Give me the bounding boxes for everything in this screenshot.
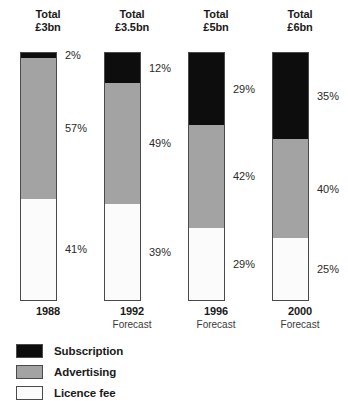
bar-total-caption: Total£6bn bbox=[271, 8, 329, 34]
bar-group-1996: Total£5bn29%42%29%1996Forecast bbox=[187, 0, 271, 330]
segment-advertising[interactable]: 57% bbox=[21, 58, 56, 199]
segment-subscription[interactable]: 35% bbox=[273, 53, 308, 139]
segment-percent-label: 49% bbox=[149, 137, 171, 149]
segment-licence-fee[interactable]: 29% bbox=[189, 228, 224, 300]
stacked-bar-chart: Total£3bn2%57%41%1988Total£3.5bn12%49%39… bbox=[0, 0, 348, 330]
segment-subscription[interactable]: 12% bbox=[105, 53, 140, 83]
segment-percent-label: 2% bbox=[65, 49, 81, 61]
legend-label: Licence fee bbox=[54, 387, 116, 399]
segment-percent-label: 39% bbox=[149, 246, 171, 258]
segment-percent-label: 40% bbox=[317, 183, 339, 195]
total-word: Total bbox=[187, 8, 245, 21]
bar-forecast-note: Forecast bbox=[271, 319, 329, 330]
bar-group-2000: Total£6bn35%40%25%2000Forecast bbox=[271, 0, 348, 330]
bar-total-caption: Total£5bn bbox=[187, 8, 245, 34]
segment-advertising[interactable]: 49% bbox=[105, 83, 140, 204]
bar-forecast-note: Forecast bbox=[103, 319, 161, 330]
bar-forecast-note: Forecast bbox=[187, 319, 245, 330]
segment-percent-label: 12% bbox=[149, 62, 171, 74]
stacked-bar-column[interactable]: 2%57%41% bbox=[20, 52, 57, 301]
bar-year-label: 1988 bbox=[19, 305, 77, 317]
total-value: £3bn bbox=[19, 21, 77, 34]
legend-label: Advertising bbox=[54, 366, 116, 378]
total-word: Total bbox=[19, 8, 77, 21]
total-value: £3.5bn bbox=[103, 21, 161, 34]
chart-legend: SubscriptionAdvertisingLicence fee bbox=[16, 341, 336, 401]
legend-label: Subscription bbox=[54, 345, 123, 357]
legend-item[interactable]: Subscription bbox=[16, 341, 336, 361]
segment-percent-label: 41% bbox=[65, 243, 87, 255]
segment-percent-label: 57% bbox=[65, 122, 87, 134]
bar-year-label: 1996 bbox=[187, 305, 245, 317]
segment-licence-fee[interactable]: 41% bbox=[21, 199, 56, 300]
legend-swatch-icon bbox=[16, 344, 43, 358]
bar-total-caption: Total£3bn bbox=[19, 8, 77, 34]
bar-total-caption: Total£3.5bn bbox=[103, 8, 161, 34]
bar-year-label: 1992 bbox=[103, 305, 161, 317]
segment-advertising[interactable]: 40% bbox=[273, 139, 308, 238]
stacked-bar-column[interactable]: 29%42%29% bbox=[188, 52, 225, 301]
total-value: £5bn bbox=[187, 21, 245, 34]
bar-group-1992: Total£3.5bn12%49%39%1992Forecast bbox=[103, 0, 187, 330]
segment-advertising[interactable]: 42% bbox=[189, 125, 224, 229]
total-word: Total bbox=[103, 8, 161, 21]
segment-percent-label: 29% bbox=[233, 258, 255, 270]
segment-percent-label: 29% bbox=[233, 83, 255, 95]
legend-swatch-icon bbox=[16, 386, 43, 400]
bar-year-label: 2000 bbox=[271, 305, 329, 317]
stacked-bar-column[interactable]: 12%49%39% bbox=[104, 52, 141, 301]
segment-percent-label: 35% bbox=[317, 90, 339, 102]
segment-percent-label: 25% bbox=[317, 263, 339, 275]
bar-group-1988: Total£3bn2%57%41%1988 bbox=[19, 0, 103, 330]
total-word: Total bbox=[271, 8, 329, 21]
stacked-bar-column[interactable]: 35%40%25% bbox=[272, 52, 309, 301]
segment-subscription[interactable]: 29% bbox=[189, 53, 224, 125]
legend-item[interactable]: Advertising bbox=[16, 362, 336, 382]
segment-licence-fee[interactable]: 39% bbox=[105, 204, 140, 300]
segment-percent-label: 42% bbox=[233, 170, 255, 182]
legend-swatch-icon bbox=[16, 365, 43, 379]
total-value: £6bn bbox=[271, 21, 329, 34]
legend-item[interactable]: Licence fee bbox=[16, 383, 336, 401]
segment-licence-fee[interactable]: 25% bbox=[273, 238, 308, 300]
